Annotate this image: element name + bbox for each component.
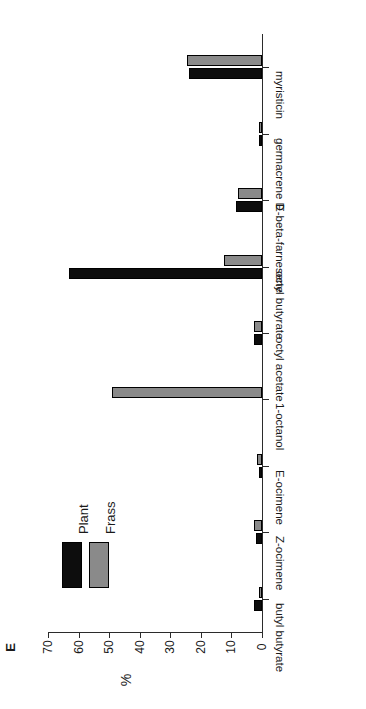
legend-label-frass: Frass bbox=[103, 502, 118, 535]
category-label-8: butyl butyrate bbox=[274, 603, 286, 672]
value-tick-label-10: 10 bbox=[224, 632, 238, 662]
bar-frass-8 bbox=[259, 587, 262, 598]
bar-plant-7 bbox=[256, 533, 262, 544]
bar-plant-2 bbox=[236, 201, 262, 212]
bar-frass-4 bbox=[254, 321, 262, 332]
bar-frass-6 bbox=[257, 454, 262, 465]
bar-frass-0 bbox=[187, 55, 262, 66]
bar-plant-4 bbox=[254, 334, 262, 345]
category-tick-3 bbox=[263, 267, 269, 268]
category-tick-1 bbox=[263, 134, 269, 135]
category-label-7: Z-ocimene bbox=[274, 536, 286, 590]
category-tick-0 bbox=[263, 67, 269, 68]
bar-frass-3 bbox=[224, 255, 262, 266]
category-tick-7 bbox=[263, 532, 269, 533]
value-tick-label-70: 70 bbox=[41, 632, 55, 662]
category-label-5: 1-octanol bbox=[274, 403, 286, 450]
bar-frass-1 bbox=[259, 122, 262, 133]
category-tick-6 bbox=[263, 466, 269, 467]
category-label-4: octyl acetate bbox=[274, 337, 286, 402]
value-tick-label-0: 0 bbox=[255, 632, 269, 662]
category-tick-8 bbox=[263, 599, 269, 600]
value-tick-label-40: 40 bbox=[133, 632, 147, 662]
legend-swatch-plant bbox=[62, 542, 82, 588]
bar-frass-7 bbox=[254, 520, 262, 531]
legend-swatch-frass bbox=[89, 542, 109, 588]
category-label-6: E-ocimene bbox=[274, 470, 286, 525]
bar-plant-1 bbox=[259, 135, 262, 146]
value-tick-label-30: 30 bbox=[163, 632, 177, 662]
bar-plant-8 bbox=[254, 600, 262, 611]
value-tick-label-50: 50 bbox=[102, 632, 116, 662]
bar-plant-0 bbox=[189, 68, 262, 79]
value-axis-title: % bbox=[118, 674, 134, 686]
panel-letter: E bbox=[3, 643, 18, 652]
bar-chart-panel-e: E % 706050403020100 myristicingermacrene… bbox=[0, 0, 366, 709]
bar-plant-3 bbox=[69, 268, 262, 279]
bar-frass-5 bbox=[112, 387, 262, 398]
value-tick-label-60: 60 bbox=[72, 632, 86, 662]
legend-label-plant: Plant bbox=[76, 504, 91, 534]
category-tick-2 bbox=[263, 200, 269, 201]
category-label-1: germacrene D bbox=[274, 138, 286, 211]
bar-plant-6 bbox=[259, 467, 262, 478]
category-label-3: octyl butyrate bbox=[274, 271, 286, 339]
bar-frass-2 bbox=[238, 188, 262, 199]
category-label-0: myristicin bbox=[274, 71, 286, 119]
category-tick-5 bbox=[263, 399, 269, 400]
value-tick-label-20: 20 bbox=[194, 632, 208, 662]
category-tick-4 bbox=[263, 333, 269, 334]
